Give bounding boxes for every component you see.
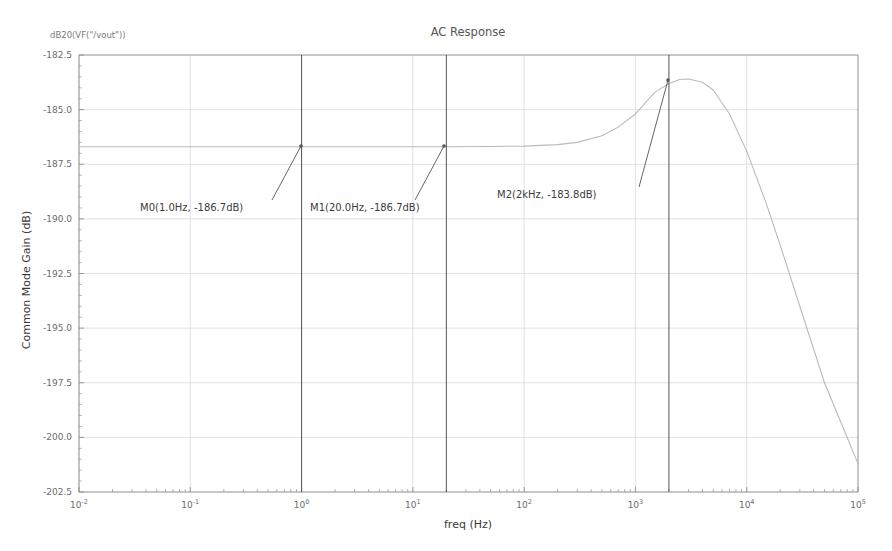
grid-lines [79, 55, 858, 492]
y-tick-label: -202.5 [43, 487, 72, 497]
marker-label-m1[interactable]: M1(20.0Hz, -186.7dB) [310, 202, 420, 213]
data-series [79, 79, 858, 464]
x-tick-label: 101 [405, 498, 421, 510]
x-tick-label: 10-2 [70, 498, 88, 510]
y-tick-labels: -182.5-185.0-187.5-190.0-192.5-195.0-197… [43, 50, 72, 497]
marker-label-m2[interactable]: M2(2kHz, -183.8dB) [497, 189, 597, 200]
y-axis-title: Common Mode Gain (dB) [20, 211, 33, 349]
x-tick-label: 10-1 [181, 498, 199, 510]
marker-leader-line-m0 [272, 146, 301, 200]
trace-expression-label: dB20(VF("/vout")) [50, 30, 126, 40]
y-tick-label: -190.0 [43, 214, 72, 224]
x-tick-labels: 10-210-1100101102103104105 [70, 498, 866, 510]
ac-response-chart: dB20(VF("/vout")) AC Response M0(1.0Hz, … [0, 0, 892, 551]
y-tick-label: -192.5 [43, 269, 72, 279]
marker-leader-line-m2 [639, 80, 668, 187]
y-tick-label: -197.5 [43, 378, 72, 388]
y-tick-label: -182.5 [43, 50, 72, 60]
marker-point-m2[interactable] [666, 78, 670, 82]
x-tick-label: 104 [739, 498, 755, 510]
chart-canvas: dB20(VF("/vout")) AC Response M0(1.0Hz, … [0, 0, 892, 551]
y-tick-label: -195.0 [43, 323, 72, 333]
marker-point-m0[interactable] [299, 144, 303, 148]
marker-label-m0[interactable]: M0(1.0Hz, -186.7dB) [140, 202, 243, 213]
marker-point-m1[interactable] [442, 144, 446, 148]
y-tick-label: -187.5 [43, 159, 72, 169]
x-tick-label: 103 [628, 498, 644, 510]
marker-labels[interactable]: M0(1.0Hz, -186.7dB)M1(20.0Hz, -186.7dB)M… [140, 189, 597, 213]
x-tick-label: 102 [516, 498, 532, 510]
series-line [79, 79, 858, 464]
x-tick-label: 100 [294, 498, 310, 510]
y-tick-label: -185.0 [43, 105, 72, 115]
y-tick-label: -200.0 [43, 432, 72, 442]
marker-leader-line-m1 [415, 146, 444, 200]
x-axis-title: freq (Hz) [444, 518, 492, 531]
chart-title: AC Response [431, 25, 506, 39]
x-tick-label: 105 [850, 498, 866, 510]
